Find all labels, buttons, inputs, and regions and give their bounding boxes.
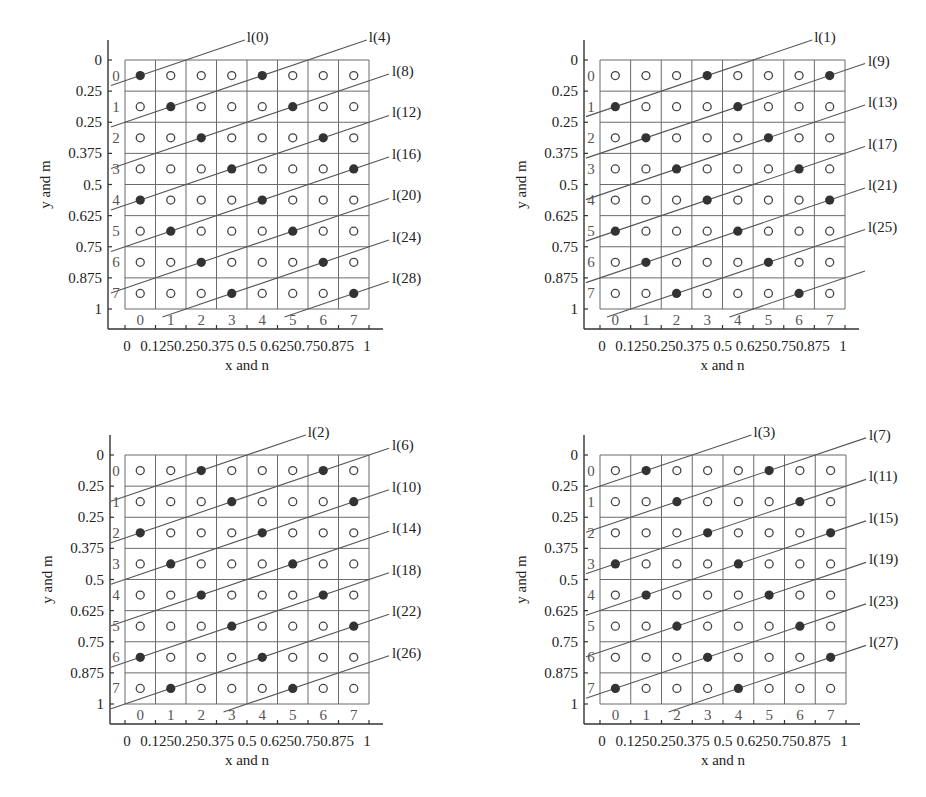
open-sample-point [228, 103, 236, 111]
filled-sample-point [166, 102, 175, 111]
open-sample-point [734, 134, 742, 142]
x-tick-label: 0.5 [238, 338, 257, 354]
open-sample-point [289, 258, 297, 266]
open-sample-point [827, 622, 835, 630]
row-index-label: 1 [587, 99, 595, 115]
open-sample-point [704, 622, 712, 630]
line-label: l(14) [392, 520, 421, 537]
filled-sample-point [197, 258, 206, 267]
row-index-label: 3 [112, 556, 120, 572]
open-sample-point [350, 467, 358, 475]
open-sample-point [289, 498, 297, 506]
line-label: l(26) [392, 645, 421, 662]
open-sample-point [826, 134, 834, 142]
open-sample-point [704, 467, 712, 475]
x-tick-label: 0.875 [796, 338, 830, 354]
open-sample-point [827, 498, 835, 506]
x-tick-label: 0.875 [320, 338, 354, 354]
filled-sample-point [136, 653, 145, 662]
open-sample-point [764, 289, 772, 297]
panel-top-left: 00.250.250.3750.50.6250.750.875100.1250.… [37, 29, 421, 373]
filled-sample-point [611, 227, 620, 236]
y-axis-title: y and m [513, 160, 529, 209]
x-tick-label: 0.25 [174, 733, 200, 749]
x-tick-label: 0.125 [615, 733, 649, 749]
open-sample-point [673, 653, 681, 661]
x-tick-label: 0.125 [140, 338, 174, 354]
open-sample-point [136, 591, 144, 599]
diagonal-line [284, 281, 389, 317]
column-index-label: 7 [827, 707, 835, 723]
diagonal-line [111, 40, 245, 86]
column-index-label: 7 [826, 312, 834, 328]
y-axis-title: y and m [513, 555, 529, 604]
diagonal-line [586, 147, 865, 242]
x-tick-label: 0.125 [140, 733, 174, 749]
row-index-label: 7 [587, 680, 595, 696]
open-sample-point [611, 467, 619, 475]
y-axis-title: y and m [37, 160, 53, 209]
line-label: l(8) [392, 63, 414, 80]
open-sample-point [673, 529, 681, 537]
filled-sample-point [166, 684, 175, 693]
y-tick-label: 0.25 [552, 114, 578, 130]
line-label: l(28) [392, 270, 421, 287]
y-tick-label: 1 [571, 696, 579, 712]
x-tick-label: 0 [598, 338, 606, 354]
open-sample-point [734, 467, 742, 475]
row-index-label: 5 [587, 618, 595, 634]
row-index-label: 7 [587, 285, 595, 301]
column-index-label: 4 [259, 707, 267, 723]
column-index-label: 3 [703, 312, 711, 328]
column-index-label: 2 [673, 312, 681, 328]
open-sample-point [319, 196, 327, 204]
column-index-label: 5 [765, 707, 773, 723]
column-index-label: 0 [137, 312, 145, 328]
filled-sample-point [641, 258, 650, 267]
open-sample-point [703, 258, 711, 266]
open-sample-point [289, 591, 297, 599]
open-sample-point [136, 467, 144, 475]
open-sample-point [611, 72, 619, 80]
open-sample-point [319, 165, 327, 173]
filled-sample-point [764, 258, 773, 267]
open-sample-point [258, 165, 266, 173]
line-label: l(6) [392, 437, 414, 454]
open-sample-point [136, 227, 144, 235]
open-sample-point [197, 72, 205, 80]
column-index-label: 6 [320, 312, 328, 328]
x-tick-label: 0.75 [770, 733, 796, 749]
row-index-label: 1 [587, 494, 595, 510]
line-label: l(7) [869, 427, 891, 444]
x-tick-label: 0.625 [260, 733, 294, 749]
column-index-label: 1 [642, 312, 650, 328]
open-sample-point [795, 196, 803, 204]
open-sample-point [642, 289, 650, 297]
panel-bottom-left: 00.250.250.3750.50.6250.750.875100.1250.… [39, 424, 421, 768]
filled-sample-point [826, 528, 835, 537]
open-sample-point [642, 684, 650, 692]
open-sample-point [703, 134, 711, 142]
filled-sample-point [227, 289, 236, 298]
filled-sample-point [703, 528, 712, 537]
open-sample-point [228, 196, 236, 204]
open-sample-point [350, 560, 358, 568]
filled-sample-point [611, 102, 620, 111]
y-tick-label: 0.5 [559, 177, 578, 193]
filled-sample-point [641, 133, 650, 142]
line-label: l(18) [392, 562, 421, 579]
x-tick-label: 0.5 [238, 733, 257, 749]
filled-sample-point [288, 102, 297, 111]
row-index-label: 3 [587, 556, 595, 572]
y-tick-label: 0.875 [544, 665, 578, 681]
line-label: l(24) [392, 229, 421, 246]
filled-sample-point [642, 466, 651, 475]
lattice-figure: 00.250.250.3750.50.6250.750.875100.1250.… [0, 0, 926, 797]
open-sample-point [826, 103, 834, 111]
open-sample-point [167, 134, 175, 142]
diagonal-line [586, 188, 865, 283]
column-index-label: 0 [612, 707, 620, 723]
x-axis-title: x and n [225, 357, 270, 373]
diagonal-line [111, 490, 389, 585]
filled-sample-point [703, 653, 712, 662]
